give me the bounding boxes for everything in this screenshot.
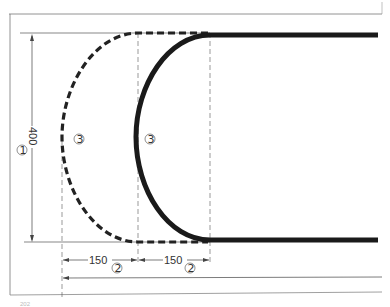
svg-text:2: 2 xyxy=(115,262,122,275)
reference-lines xyxy=(20,33,210,242)
height-dimension: 400 1 xyxy=(17,34,39,242)
page-number-faint: 202 xyxy=(20,301,31,307)
offset-left-label: 150 xyxy=(89,254,107,266)
height-marker-digit: 1 xyxy=(20,144,27,157)
svg-text:3: 3 xyxy=(148,133,155,146)
svg-text:2: 2 xyxy=(188,262,195,275)
curve-marker-solid: 3 xyxy=(145,133,155,146)
outer-frame xyxy=(9,2,382,295)
offset-dimensions: 150 2 150 2 xyxy=(63,253,382,280)
solid-track-curve xyxy=(136,35,378,240)
svg-text:3: 3 xyxy=(77,133,84,146)
track-diagram: 400 1 3 3 150 2 150 2 20 xyxy=(0,0,390,307)
offset-right-label: 150 xyxy=(164,254,182,266)
curve-marker-dashed: 3 xyxy=(74,133,84,146)
height-label: 400 xyxy=(27,127,39,145)
